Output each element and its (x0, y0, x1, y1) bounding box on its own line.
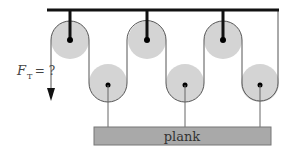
axle-top-3 (220, 37, 226, 43)
axle-top-1 (67, 37, 73, 43)
force-equals: = ? (31, 64, 55, 78)
force-symbol: F (16, 63, 27, 78)
pulley-diagram: plank F T = ? (0, 0, 294, 158)
force-label: F (16, 63, 27, 78)
plank-label: plank (164, 129, 201, 144)
arrow-down-icon (47, 88, 55, 101)
axle-top-2 (144, 37, 150, 43)
